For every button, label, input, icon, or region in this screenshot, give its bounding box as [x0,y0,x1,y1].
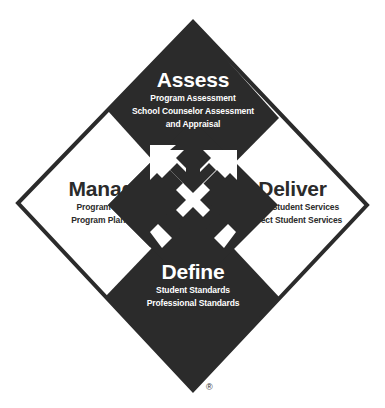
assess-item: School Counselor Assessment [113,105,273,118]
deliver-label-group: Deliver Direct Student Services Indirect… [230,177,355,227]
assess-title: Assess [113,68,273,92]
deliver-item: Direct Student Services [230,201,355,214]
assess-label-group: Assess Program Assessment School Counsel… [113,68,273,131]
define-item: Professional Standards [113,297,273,310]
define-title: Define [113,260,273,284]
assess-item: Program Assessment [113,92,273,105]
manage-title: Manage [52,177,162,201]
manage-item: Program Focus [52,201,162,214]
deliver-item: Indirect Student Services [230,214,355,227]
assess-item: and Appraisal [113,118,273,131]
define-label-group: Define Student Standards Professional St… [113,260,273,310]
registered-trademark-mark: ® [206,382,213,392]
manage-label-group: Manage Program Focus Program Planning [52,177,162,227]
manage-item: Program Planning [52,214,162,227]
deliver-title: Deliver [230,177,355,201]
define-item: Student Standards [113,284,273,297]
